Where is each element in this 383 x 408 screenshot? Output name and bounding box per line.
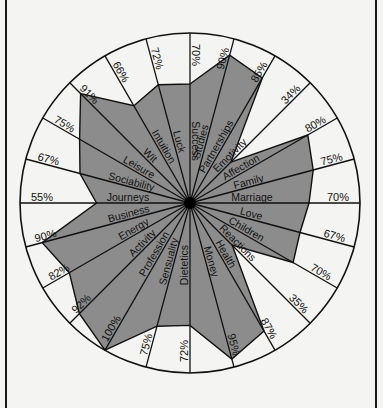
value-label-sensuality: 75%: [137, 332, 154, 357]
value-label-love: 67%: [322, 227, 347, 244]
value-label-luck: 72%: [149, 46, 166, 71]
value-label-dietetics: 72%: [178, 340, 190, 362]
value-label-success: 70%: [190, 44, 202, 66]
value-polygon: [42, 55, 313, 359]
category-label-journeys: Journeys: [107, 191, 150, 203]
value-label-family: 75%: [319, 150, 344, 167]
category-label-marriage: Marriage: [231, 191, 273, 203]
value-label-marriage: 70%: [327, 191, 349, 203]
category-label-dietetics: Dietetics: [178, 245, 190, 285]
value-label-sociability: 67%: [36, 150, 61, 167]
center-hub: [184, 197, 196, 209]
value-label-emotivity: 34%: [278, 82, 302, 106]
value-label-reactions: 35%: [287, 291, 311, 315]
value-label-journeys: 55%: [31, 191, 53, 203]
